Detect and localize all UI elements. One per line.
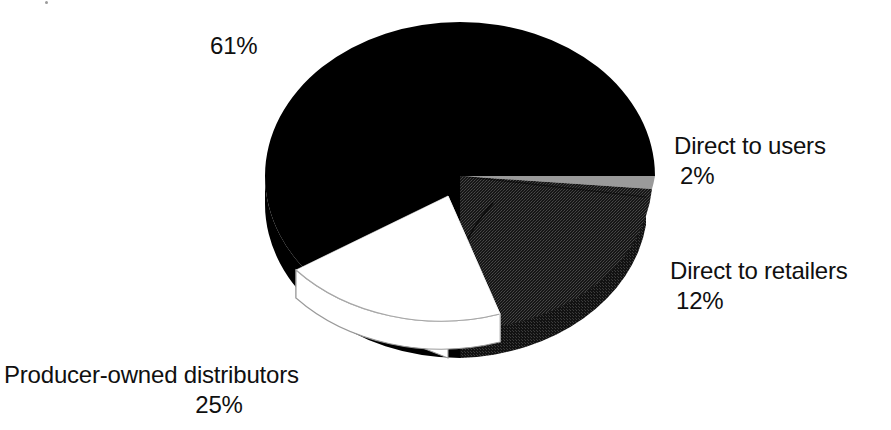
slice-label-majority: 61% [210,31,257,61]
slice-label-direct-to-users: Direct to users 2% [674,131,826,191]
slice-label-direct-to-retailers: Direct to retailers 12% [670,256,848,316]
slice-percent-producer-owned-distributors: 25% [4,390,299,420]
slice-percent-direct-to-users: 2% [674,161,826,191]
pie-chart-figure: 61% Direct to users 2% Direct to retaile… [0,0,891,430]
slice-percent-majority: 61% [210,31,257,61]
slice-label-producer-owned-distributors: Producer-owned distributors 25% [4,360,299,420]
slice-name-producer-owned-distributors: Producer-owned distributors [4,361,299,388]
slice-name-direct-to-users: Direct to users [674,132,826,159]
slice-percent-direct-to-retailers: 12% [670,286,848,316]
slice-name-direct-to-retailers: Direct to retailers [670,257,848,284]
